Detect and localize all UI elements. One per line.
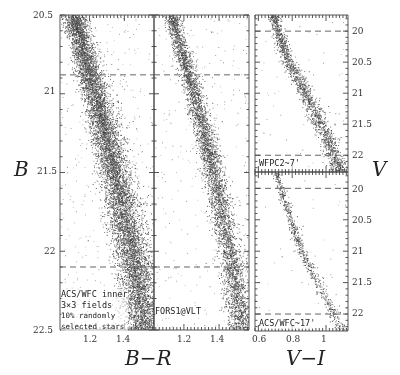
ytick-left-21: 21	[44, 86, 55, 96]
xtick-right-1: 1	[321, 334, 327, 344]
ytick-left-22: 22	[44, 246, 55, 256]
note-rb-panel: ACS/WFC~17'	[259, 318, 315, 329]
ytick-rb-20.5: 20.5	[352, 215, 372, 225]
ytick-rb-22: 22	[352, 308, 363, 318]
ytick-rb-20: 20	[352, 184, 363, 194]
ytick-rt-21: 21	[352, 88, 363, 98]
note-left-line3: 10% randomly	[61, 311, 128, 322]
xtick-mid-1.2: 1.2	[177, 334, 191, 344]
ytick-left-21.5: 21.5	[37, 166, 57, 176]
xtick-left-1.2: 1.2	[83, 334, 97, 344]
ytick-rt-20.5: 20.5	[352, 57, 372, 67]
ytick-rt-20: 20	[352, 26, 363, 36]
note-left-line2: 3×3 fields	[61, 300, 128, 311]
ytick-rt-22: 22	[352, 150, 363, 160]
note-mid-panel: FORS1@VLT	[155, 306, 201, 317]
axes-frames	[0, 0, 400, 375]
cmd-figure: 20.5 21 21.5 22 22.5 1.2 1.4 1.2 1.4 20 …	[0, 0, 400, 375]
ytick-rb-21.5: 21.5	[352, 277, 372, 287]
xtick-right-0.8: 0.8	[286, 334, 300, 344]
note-rt-panel: WFPC2~7'	[259, 158, 300, 169]
xtick-left-1.4: 1.4	[116, 334, 130, 344]
x-axis-title-left: B−R	[125, 346, 172, 370]
xtick-right-0.6: 0.6	[252, 334, 266, 344]
note-left-panel: ACS/WFC inner 3×3 fields 10% randomly se…	[61, 289, 128, 332]
y-axis-title-right: V	[372, 157, 386, 181]
ytick-left-20.5: 20.5	[33, 10, 53, 20]
x-axis-title-right: V−I	[286, 346, 325, 370]
y-axis-title-left: B	[14, 157, 29, 181]
ytick-left-22.5: 22.5	[33, 325, 53, 335]
xtick-mid-1.4: 1.4	[210, 334, 224, 344]
ytick-rb-21: 21	[352, 246, 363, 256]
note-left-line4: selected stars	[61, 322, 128, 333]
note-left-line1: ACS/WFC inner	[61, 289, 128, 300]
ytick-rt-21.5: 21.5	[352, 119, 372, 129]
